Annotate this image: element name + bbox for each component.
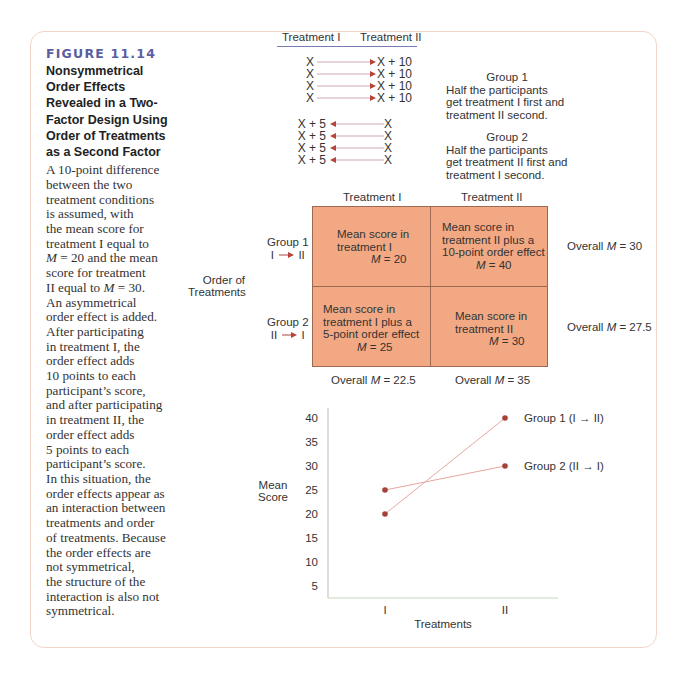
data-point <box>382 511 388 517</box>
y-tick-label: 25 <box>305 484 318 496</box>
y-tick-label: 35 <box>305 436 318 448</box>
data-point <box>382 487 388 493</box>
data-point <box>502 415 508 421</box>
y-tick-label: 30 <box>305 460 318 472</box>
interaction-chart: 510152025303540IIITreatmentsMeanScoreGro… <box>0 0 686 675</box>
x-tick-label: II <box>502 604 508 616</box>
y-tick-label: 5 <box>312 580 318 592</box>
y-tick-label: 10 <box>305 556 318 568</box>
y-axis-label: Mean <box>259 479 288 491</box>
series-label: Group 1 (I → II) <box>524 412 604 424</box>
series-line <box>385 418 505 514</box>
y-tick-label: 15 <box>305 532 318 544</box>
x-tick-label: I <box>383 604 386 616</box>
data-point <box>502 463 508 469</box>
series-line <box>385 466 505 490</box>
y-tick-label: 40 <box>305 412 318 424</box>
y-axis-label: Score <box>258 491 288 503</box>
x-axis-label: Treatments <box>414 618 472 630</box>
series-label: Group 2 (II → I) <box>524 460 604 472</box>
y-tick-label: 20 <box>305 508 318 520</box>
